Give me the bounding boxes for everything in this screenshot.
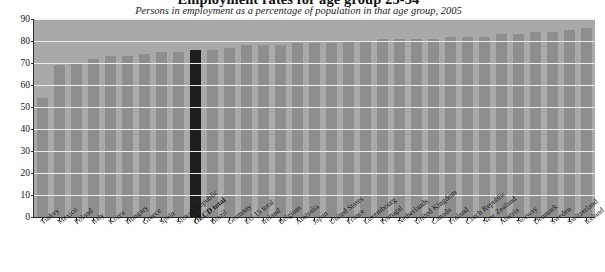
bar bbox=[411, 39, 422, 217]
y-axis-tick-label: 90 bbox=[21, 15, 31, 24]
bar bbox=[190, 50, 201, 217]
y-axis-tick bbox=[31, 41, 34, 42]
chart-subtitle: Persons in employment as a percentage of… bbox=[0, 5, 597, 16]
y-axis-tick bbox=[31, 85, 34, 86]
bar bbox=[530, 32, 541, 217]
y-axis-tick bbox=[31, 173, 34, 174]
y-axis-tick bbox=[31, 19, 34, 20]
bar bbox=[547, 32, 558, 217]
y-axis-tick-label: 70 bbox=[21, 59, 31, 68]
y-axis-tick-label: 30 bbox=[21, 147, 31, 156]
bar bbox=[581, 28, 592, 217]
bar bbox=[37, 98, 48, 217]
bar bbox=[224, 48, 235, 217]
gridline bbox=[34, 41, 595, 42]
y-axis-tick-label: 40 bbox=[21, 125, 31, 134]
gridline bbox=[34, 85, 595, 86]
gridline bbox=[34, 107, 595, 108]
bar bbox=[88, 59, 99, 217]
bar bbox=[156, 52, 167, 217]
bar bbox=[173, 52, 184, 217]
y-axis-tick bbox=[31, 217, 34, 218]
y-axis-tick-label: 80 bbox=[21, 37, 31, 46]
bar bbox=[71, 63, 82, 217]
y-axis-tick bbox=[31, 63, 34, 64]
gridline bbox=[34, 63, 595, 64]
x-axis-labels: TurkeyMexicoPolandItalyKoreaHungaryGreec… bbox=[0, 220, 597, 272]
y-axis-tick-label: 10 bbox=[21, 191, 31, 200]
y-axis-tick bbox=[31, 107, 34, 108]
gridline bbox=[34, 173, 595, 174]
bar bbox=[292, 43, 303, 217]
bar bbox=[241, 45, 252, 217]
bar bbox=[377, 39, 388, 217]
bar-series bbox=[34, 19, 595, 217]
bar bbox=[564, 30, 575, 217]
bar bbox=[122, 56, 133, 217]
y-axis-tick bbox=[31, 129, 34, 130]
y-axis-tick bbox=[31, 151, 34, 152]
y-axis-tick-label: 50 bbox=[21, 103, 31, 112]
bar bbox=[428, 39, 439, 217]
y-axis-tick-label: 20 bbox=[21, 169, 31, 178]
gridline bbox=[34, 151, 595, 152]
gridline bbox=[34, 129, 595, 130]
gridline bbox=[34, 19, 595, 20]
y-axis-tick-label: 60 bbox=[21, 81, 31, 90]
bar bbox=[275, 45, 286, 217]
plot-area bbox=[33, 19, 595, 218]
bar bbox=[513, 34, 524, 217]
y-axis-labels: 0102030405060708090 bbox=[0, 19, 30, 217]
bar bbox=[258, 45, 269, 217]
bar bbox=[139, 54, 150, 217]
y-axis-tick bbox=[31, 195, 34, 196]
bar bbox=[326, 43, 337, 217]
bar bbox=[394, 39, 405, 217]
bar bbox=[105, 56, 116, 217]
bar bbox=[309, 43, 320, 217]
